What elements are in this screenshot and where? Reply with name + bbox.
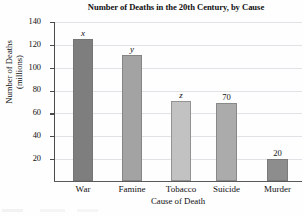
y-axis-tick-label: 20 [17, 155, 41, 163]
y-axis-tick-label: 140 [17, 18, 41, 26]
bar-label-war: x [63, 29, 103, 38]
y-axis-tick [50, 136, 55, 137]
x-axis-label-murder: Murder [252, 184, 303, 194]
bar-suicide [216, 103, 237, 181]
chart-title: Number of Deaths in the 20th Century, by… [48, 2, 304, 12]
bar-famine [122, 55, 142, 181]
bar-chart-figure: Number of Deaths in the 20th Century, by… [0, 0, 304, 217]
gridline [55, 22, 302, 23]
bar-label-famine: y [112, 45, 152, 54]
y-axis-tick-label: 80 [17, 86, 41, 94]
x-axis-label-famine: Famine [107, 184, 157, 194]
y-axis-tick [50, 45, 55, 46]
bar-label-murder: 20 [257, 149, 298, 158]
y-axis-title-line1: Number of Deaths [4, 40, 15, 103]
y-axis-tick [50, 22, 55, 23]
scan-artifact [2, 209, 98, 212]
bar-label-tobacco: z [161, 91, 201, 100]
bar-label-suicide: 70 [206, 93, 247, 102]
y-axis-tick [50, 91, 55, 92]
bar-war [73, 39, 93, 181]
x-axis-line [54, 181, 302, 182]
bar-murder [267, 159, 288, 181]
x-axis-label-suicide: Suicide [201, 184, 252, 194]
plot-area: 14012010080604020 xyz7020 WarFamineTobac… [54, 22, 302, 182]
y-axis-tick [50, 113, 55, 114]
y-axis-tick-label: 100 [17, 64, 41, 72]
y-axis-tick-label: 40 [17, 132, 41, 140]
x-axis-label-tobacco: Tobacco [156, 184, 206, 194]
y-axis-tick [50, 68, 55, 69]
y-axis-tick-label: 60 [17, 109, 41, 117]
x-axis-title: Cause of Death [54, 196, 302, 206]
y-axis-tick [50, 159, 55, 160]
x-axis-label-war: War [58, 184, 108, 194]
bar-tobacco [171, 101, 191, 181]
y-axis-tick-label: 120 [17, 41, 41, 49]
